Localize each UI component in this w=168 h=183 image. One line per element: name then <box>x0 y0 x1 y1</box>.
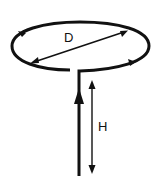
diameter-arrowhead-left <box>30 57 39 64</box>
loop-antenna-diagram: D H <box>0 0 168 183</box>
diameter-label: D <box>64 30 73 45</box>
diameter-dimension-arrow <box>34 32 124 62</box>
height-label: H <box>98 119 107 134</box>
feed-line <box>79 71 80 176</box>
height-arrowhead-bottom <box>89 165 96 174</box>
diameter-arrowhead-right <box>120 31 128 38</box>
feed-current-arrow-icon <box>74 88 84 104</box>
height-arrowhead-top <box>89 80 96 89</box>
